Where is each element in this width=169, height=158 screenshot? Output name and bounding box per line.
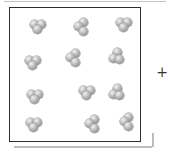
top-edge-shadow-line xyxy=(4,1,166,2)
box-bottom-shadow xyxy=(14,146,152,148)
particulate-diagram: + xyxy=(0,0,169,158)
atom-sphere xyxy=(115,55,124,64)
atom-sphere xyxy=(115,91,124,100)
box-right-shadow xyxy=(152,133,154,147)
plus-sign: + xyxy=(155,64,169,80)
